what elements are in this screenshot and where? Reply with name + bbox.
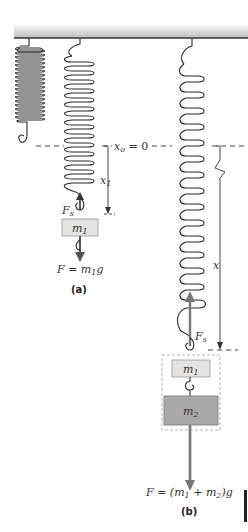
weight-label-a: F = m1g [56, 263, 103, 277]
x0-label: xo = 0 [114, 140, 148, 154]
fs-label-a: Fs [61, 204, 74, 218]
dimension-x: x [208, 146, 238, 350]
weight-label-b: F = (m1 + m2)g [145, 486, 233, 500]
weight-arrow-b [185, 425, 195, 491]
mass-m2-b: m2 [164, 396, 218, 425]
spring-b: Fs [178, 38, 207, 350]
dimension-x1: x1 [100, 146, 115, 214]
spring-a: Fs m1 F = m1g (a) [56, 38, 103, 295]
x1-label: x1 [100, 174, 111, 188]
mass-m1-b: m1 [172, 360, 210, 396]
unstretched-spring [16, 38, 45, 142]
spring-mass-diagram: xo = 0 Fs m1 F = m1g (a) x1 [0, 0, 248, 532]
hook-icon [186, 377, 194, 396]
caption-a: (a) [71, 284, 87, 295]
fs-label-b: Fs [194, 330, 207, 344]
ceiling [14, 24, 248, 38]
caption-b: (b) [181, 506, 197, 517]
page-edge-mark [244, 490, 247, 522]
hook-icon [19, 134, 27, 142]
x-label: x [213, 259, 220, 272]
